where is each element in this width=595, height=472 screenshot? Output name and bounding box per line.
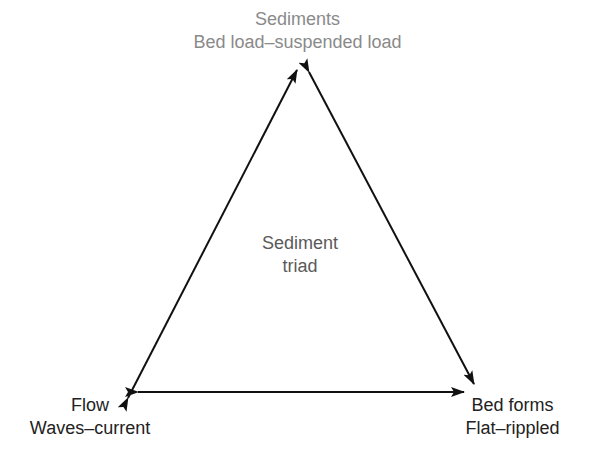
node-title: Sediments [0, 8, 595, 31]
center-line1: Sediment [220, 232, 380, 255]
node-subtitle: Flat–rippled [430, 417, 595, 440]
node-subtitle: Bed load–suspended load [0, 31, 595, 54]
node-title: Flow [0, 394, 180, 417]
node-bed-forms: Bed forms Flat–rippled [430, 394, 595, 440]
edge-sediments-bedforms [309, 72, 474, 384]
node-sediments: Sediments Bed load–suspended load [0, 8, 595, 54]
center-label: Sediment triad [220, 232, 380, 278]
node-title: Bed forms [430, 394, 595, 417]
center-line2: triad [220, 255, 380, 278]
node-subtitle: Waves–current [0, 417, 180, 440]
node-flow: Flow Waves–current [0, 394, 180, 440]
